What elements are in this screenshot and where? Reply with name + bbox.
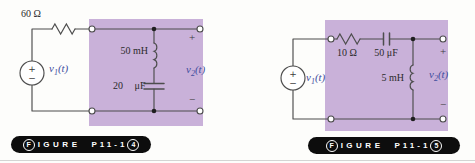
voltage-argument: (t) (438, 68, 449, 81)
circuit-p11-14: + − 60 Ω 50 mH 20 μF + − v1(t) v2(t) (20, 8, 206, 126)
terminal-node (197, 26, 203, 32)
terminal-node (89, 108, 95, 114)
output-plus-sign: + (189, 31, 195, 43)
terminal-node (440, 36, 446, 42)
resistor-zigzag (52, 24, 75, 34)
junction-dot (411, 37, 416, 42)
figure-badge-p11-14: FIGUREP11-14 (11, 136, 151, 153)
junction-dot (411, 117, 416, 122)
output-minus-sign: − (189, 93, 195, 105)
circuit-p11-15: + − 10 Ω 50 μF 5 mH + − v1(t) v2(t) (281, 20, 449, 131)
badge-code: P11-1 (394, 141, 430, 150)
textbook-figure-panel: + − 60 Ω 50 mH 20 μF + − v1(t) v2(t) (0, 0, 475, 163)
figure-badge-p11-15: FIGUREP11-15 (308, 137, 460, 154)
capacitor-value-label: 50 μF (374, 47, 398, 58)
input-voltage-label: v1(t) (49, 62, 69, 77)
badge-tail-char: 5 (430, 140, 442, 152)
capacitor-unit-label: μF (135, 80, 146, 91)
terminal-node (197, 108, 203, 114)
badge-tail-char: 4 (127, 139, 139, 151)
junction-dot (152, 27, 157, 32)
terminal-node (328, 116, 334, 122)
inductor-value-label: 50 mH (121, 45, 149, 56)
input-voltage-label: v1(t) (306, 71, 326, 86)
badge-code: P11-1 (91, 140, 127, 149)
source-minus-sign: − (289, 78, 297, 88)
inductor-value-label: 5 mH (382, 72, 405, 83)
badge-word: IGURE (341, 141, 384, 150)
output-plus-sign: + (440, 45, 446, 57)
badge-word: IGURE (38, 140, 81, 149)
voltage-argument: (t) (315, 71, 326, 84)
badge-lead-char: F (326, 140, 338, 152)
capacitor-value-label: 20 (113, 80, 123, 91)
badge-lead-char: F (23, 139, 35, 151)
junction-dot (152, 109, 157, 114)
voltage-argument: (t) (58, 62, 69, 75)
voltage-argument: (t) (195, 63, 206, 76)
terminal-node (328, 36, 334, 42)
page-rule-divider (0, 160, 475, 161)
terminal-node (440, 116, 446, 122)
output-minus-sign: − (440, 98, 446, 110)
terminal-node (89, 26, 95, 32)
resistor-value-label: 10 Ω (337, 47, 357, 58)
resistor-value-label: 60 Ω (21, 8, 41, 19)
source-minus-sign: − (28, 73, 36, 83)
